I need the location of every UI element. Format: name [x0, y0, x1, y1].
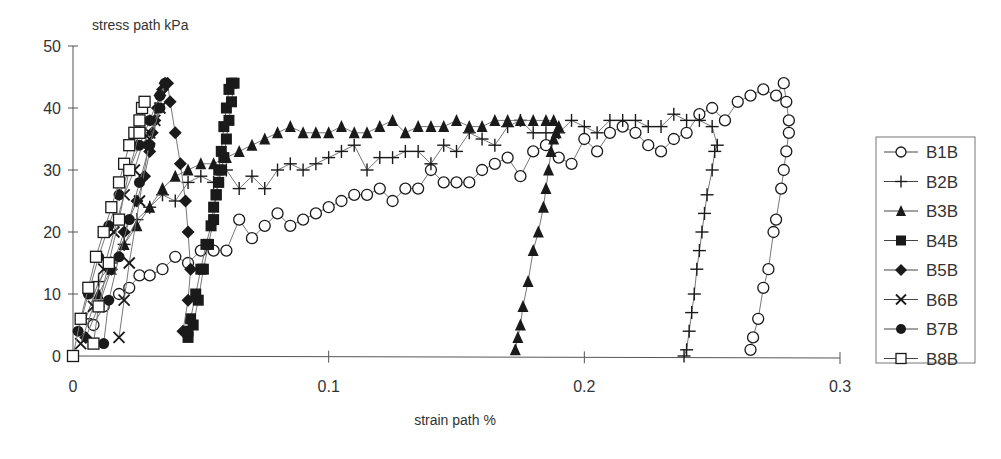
open-square-marker	[88, 338, 99, 349]
open-circle-marker	[515, 171, 526, 182]
plus-marker	[693, 244, 706, 257]
plus-marker	[685, 306, 698, 319]
open-circle-marker	[298, 214, 309, 225]
open-circle-marker	[719, 115, 730, 126]
filled-triangle-marker	[528, 244, 539, 256]
plus-marker	[437, 139, 450, 152]
filled-circle-marker	[114, 251, 125, 262]
filled-triangle-marker	[517, 300, 528, 312]
open-square-marker	[83, 282, 94, 293]
open-circle-marker	[234, 214, 245, 225]
open-circle-marker	[745, 344, 756, 355]
filled-triangle-marker	[336, 120, 347, 132]
legend-label: B5B	[926, 261, 958, 280]
open-square-marker	[106, 202, 117, 213]
filled-triangle-marker	[259, 133, 270, 145]
filled-triangle-marker	[285, 120, 296, 132]
series-b6b	[75, 103, 165, 350]
open-circle-marker	[656, 146, 667, 157]
x-cross-marker	[124, 258, 135, 269]
open-circle-marker	[630, 127, 641, 138]
plus-marker	[271, 164, 284, 177]
plus-marker	[348, 139, 361, 152]
open-circle-marker	[778, 78, 789, 89]
open-square-marker	[91, 251, 102, 262]
filled-square-marker	[200, 239, 211, 250]
filled-circle-marker	[144, 140, 155, 151]
open-square-marker	[68, 351, 79, 362]
open-circle-marker	[400, 183, 411, 194]
open-square-marker	[114, 214, 125, 225]
filled-square-marker	[218, 152, 229, 163]
open-circle-marker	[592, 146, 603, 157]
filled-square-marker	[221, 134, 232, 145]
filled-square-marker	[185, 313, 196, 324]
open-circle-marker	[771, 214, 782, 225]
x-tick-label: 0	[69, 378, 78, 395]
series-b3b	[93, 114, 564, 355]
legend: B1BB2BB3BB4BB5BB6BB7BB8B	[876, 137, 975, 369]
filled-triangle-marker	[400, 126, 411, 138]
filled-square-marker	[226, 96, 237, 107]
open-circle-marker	[221, 245, 232, 256]
filled-triangle-marker	[157, 182, 168, 194]
x-tick-label: 0.3	[829, 378, 851, 395]
y-tick-label: 50	[43, 38, 61, 55]
open-circle-marker	[753, 313, 764, 324]
plus-marker	[450, 145, 463, 158]
plus-marker	[680, 343, 693, 356]
filled-square-marker	[223, 115, 234, 126]
filled-triangle-marker	[533, 226, 544, 238]
plus-marker	[578, 120, 591, 133]
legend-label: B3B	[926, 202, 958, 221]
plus-marker	[488, 139, 501, 152]
plus-marker	[322, 151, 335, 164]
open-square-marker	[124, 140, 135, 151]
filled-diamond-marker	[130, 195, 143, 208]
plus-marker	[386, 151, 399, 164]
open-square-marker	[93, 301, 104, 312]
stress-strain-chart: 0102030405000.10.20.3 stress path kPa st…	[0, 0, 1001, 459]
plus-marker	[194, 170, 207, 183]
open-circle-marker	[783, 115, 794, 126]
open-circle-marker	[528, 146, 539, 157]
plus-marker	[701, 188, 714, 201]
plus-marker	[683, 325, 696, 338]
series-layer	[68, 77, 795, 363]
plus-marker	[335, 145, 348, 158]
open-circle-marker	[246, 233, 257, 244]
legend-label: B8B	[926, 350, 958, 369]
open-circle-marker	[413, 183, 424, 194]
x-tick-label: 0.2	[573, 378, 595, 395]
filled-square-marker	[206, 220, 217, 231]
open-circle-marker	[668, 134, 679, 145]
filled-triangle-marker	[246, 139, 257, 151]
open-circle-marker	[374, 183, 385, 194]
open-circle-marker	[134, 270, 145, 281]
filled-triangle-marker	[374, 120, 385, 132]
y-tick-label: 30	[43, 162, 61, 179]
filled-triangle-marker	[234, 145, 245, 157]
open-circle-marker	[285, 220, 296, 231]
plus-marker	[539, 126, 552, 139]
open-circle-marker	[707, 103, 718, 114]
plus-marker	[284, 157, 297, 170]
open-circle-legend-icon	[896, 147, 906, 157]
open-circle-marker	[502, 152, 513, 163]
filled-circle-marker	[154, 103, 165, 114]
open-circle-marker	[272, 208, 283, 219]
x-cross-marker	[114, 332, 125, 343]
filled-triangle-marker	[451, 114, 462, 126]
open-square-marker	[139, 96, 150, 107]
open-circle-marker	[604, 127, 615, 138]
open-square-marker	[103, 258, 114, 269]
filled-diamond-marker	[179, 195, 192, 208]
filled-square-legend-icon	[896, 236, 906, 246]
open-circle-marker	[451, 177, 462, 188]
filled-circle-marker	[160, 78, 171, 89]
open-circle-marker	[745, 90, 756, 101]
filled-diamond-marker	[164, 95, 177, 108]
plus-marker	[695, 226, 708, 239]
open-circle-marker	[170, 251, 181, 262]
open-square-marker	[124, 165, 135, 176]
